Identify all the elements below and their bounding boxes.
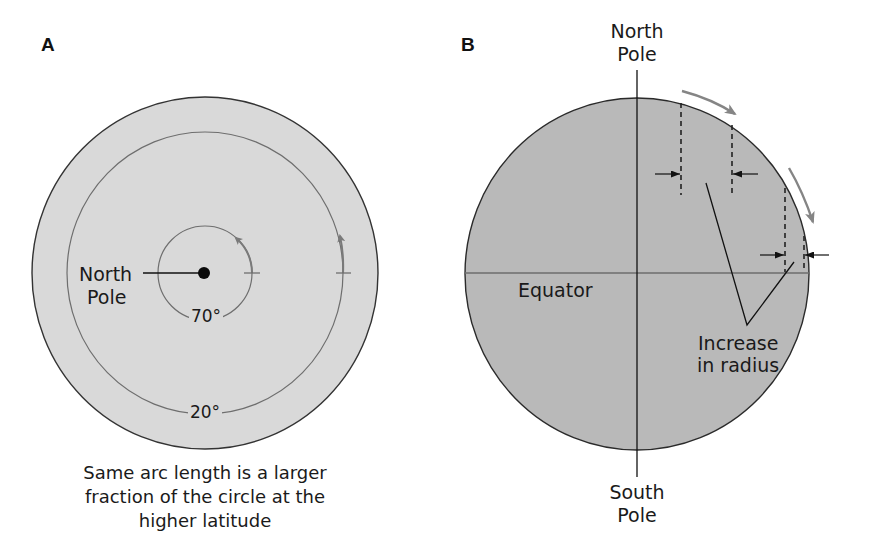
north-pole-dot-icon	[198, 267, 210, 279]
north-pole-label-line2: Pole	[617, 43, 656, 65]
latitude-label-20: 20°	[190, 402, 220, 422]
north-pole-label-line1: North	[610, 20, 663, 42]
latitude-label-70: 70°	[191, 306, 221, 326]
panel-a-pole-label-line1: North	[79, 263, 132, 285]
figure-canvas: A North Pole 70° 20° Same arc length is …	[0, 0, 871, 553]
panel-a-caption-line2: fraction of the circle at the	[85, 486, 325, 507]
panel-a-letter: A	[41, 34, 55, 55]
panel-b: B North Pole Equator Increase in radius …	[461, 20, 829, 526]
south-pole-label-line2: Pole	[617, 504, 656, 526]
panel-a-pole-label-line2: Pole	[87, 286, 126, 308]
equator-label: Equator	[518, 279, 593, 301]
panel-a-caption-line3: higher latitude	[139, 510, 272, 531]
panel-b-letter: B	[461, 34, 475, 55]
panel-a-caption-line1: Same arc length is a larger	[83, 462, 327, 483]
panel-a: A North Pole 70° 20° Same arc length is …	[32, 34, 378, 531]
increase-radius-label-line2: in radius	[697, 354, 779, 376]
increase-radius-label-line1: Increase	[698, 332, 778, 354]
south-pole-label-line1: South	[609, 481, 664, 503]
